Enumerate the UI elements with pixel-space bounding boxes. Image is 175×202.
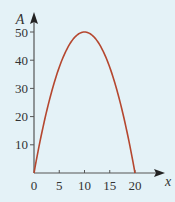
y-tick-label: 30 xyxy=(15,81,28,96)
x-axis-label: x xyxy=(164,174,172,189)
y-axis-label: A xyxy=(15,12,25,27)
chart-svg: 051015201020304050xA xyxy=(0,0,175,202)
axes: 051015201020304050xA xyxy=(15,12,172,193)
chart: 051015201020304050xA xyxy=(0,0,175,202)
y-tick-label: 10 xyxy=(15,137,28,152)
x-tick-label: 0 xyxy=(31,178,38,193)
x-tick-label: 5 xyxy=(56,178,63,193)
y-tick-label: 40 xyxy=(15,53,28,68)
data-curve xyxy=(34,32,135,173)
x-tick-label: 15 xyxy=(103,178,116,193)
x-tick-label: 10 xyxy=(78,178,91,193)
y-tick-label: 20 xyxy=(15,109,28,124)
x-tick-label: 20 xyxy=(129,178,142,193)
